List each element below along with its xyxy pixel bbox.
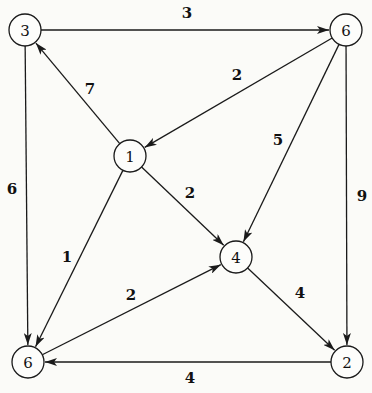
edge-weight-label: 6	[7, 180, 17, 198]
node-n2: 2	[331, 346, 363, 378]
node-n4: 4	[220, 241, 252, 273]
node-n6top: 6	[330, 14, 362, 46]
edge-weight-label: 7	[85, 80, 95, 98]
edge-6-to-4	[243, 44, 339, 241]
edge-3-to-6	[25, 46, 28, 345]
edge-4-to-2	[248, 268, 335, 350]
node-label: 3	[20, 22, 30, 40]
node-label: 4	[231, 249, 241, 267]
edge-weight-label: 3	[182, 4, 192, 22]
node-n1: 1	[114, 140, 146, 172]
node-n3: 3	[9, 14, 41, 46]
edge-weight-label: 1	[62, 248, 72, 266]
edge-weight-label: 2	[232, 66, 242, 84]
edge-1-to-4	[142, 167, 224, 245]
edge-weight-label: 2	[126, 286, 136, 304]
edge-1-to-3	[36, 43, 120, 144]
node-n6bot: 6	[12, 346, 44, 378]
node-label: 2	[342, 354, 352, 372]
node-label: 6	[23, 354, 33, 372]
edge-weight-label: 4	[295, 284, 305, 302]
edge-6-to-1	[145, 38, 332, 147]
edge-weight-label: 9	[357, 187, 367, 205]
edge-weight-label: 2	[185, 184, 195, 202]
graph-diagram: 37259621244 361462	[0, 0, 372, 393]
node-label: 1	[125, 148, 135, 166]
edge-6-to-2	[346, 46, 347, 345]
edge-weight-label: 4	[185, 369, 195, 387]
node-label: 6	[341, 22, 351, 40]
edge-weight-label: 5	[273, 131, 283, 149]
